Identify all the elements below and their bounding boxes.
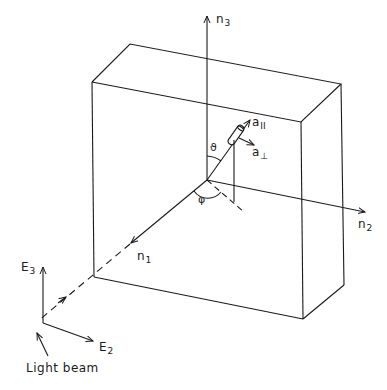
theta-label: ϑ xyxy=(210,142,217,153)
beam-path xyxy=(38,244,130,321)
n3-label: n3 xyxy=(216,13,230,28)
E2-axis xyxy=(43,323,93,341)
a-parallel-label: aII xyxy=(252,116,266,131)
phi-label: φ xyxy=(198,194,205,205)
n2-axis xyxy=(207,180,365,212)
light-beam-label: Light beam xyxy=(26,362,99,374)
crystal-box xyxy=(92,44,344,319)
a-perp-label: a⊥ xyxy=(252,146,268,161)
E2-label: E2 xyxy=(99,341,113,356)
light-beam-pointer xyxy=(37,333,48,356)
diagram-lines xyxy=(0,0,387,390)
E3-label: E3 xyxy=(21,261,35,276)
n1-label: n1 xyxy=(137,250,151,265)
diagram-canvas: n3 n2 n1 aII a⊥ ϑ φ E3 E2 Light beam xyxy=(0,0,387,390)
n1-axis xyxy=(131,180,207,243)
molecule-rod xyxy=(227,124,245,146)
n2-label: n2 xyxy=(358,218,372,233)
